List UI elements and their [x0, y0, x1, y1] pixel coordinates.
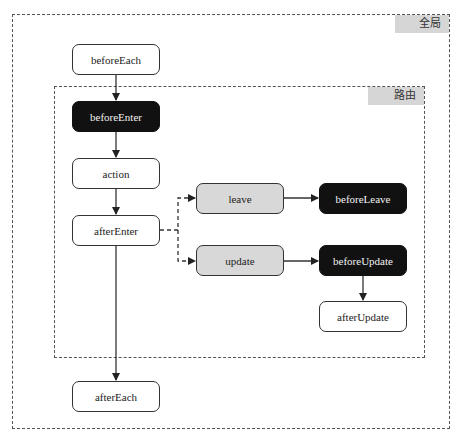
node-beforeEach-label: beforeEach: [91, 54, 141, 66]
node-leave: leave: [196, 183, 284, 214]
node-action: action: [72, 158, 160, 189]
node-afterUpdate: afterUpdate: [319, 301, 407, 332]
edges-layer: [0, 0, 460, 440]
node-beforeUpdate-label: beforeUpdate: [333, 255, 393, 267]
node-action-label: action: [103, 168, 130, 180]
node-beforeEach: beforeEach: [72, 44, 160, 75]
node-beforeLeave: beforeLeave: [319, 183, 407, 214]
node-beforeEnter-label: beforeEnter: [90, 111, 142, 123]
node-update: update: [196, 245, 284, 276]
node-afterEnter-label: afterEnter: [94, 225, 138, 237]
edge-afterEnter-leave: [160, 198, 195, 230]
node-leave-label: leave: [228, 193, 251, 205]
node-beforeEnter: beforeEnter: [72, 101, 160, 132]
node-afterEach: afterEach: [72, 381, 160, 412]
node-afterEach-label: afterEach: [95, 391, 137, 403]
node-afterEnter: afterEnter: [72, 215, 160, 246]
node-beforeLeave-label: beforeLeave: [336, 193, 391, 205]
edge-afterEnter-update: [178, 230, 195, 261]
node-beforeUpdate: beforeUpdate: [319, 245, 407, 276]
node-afterUpdate-label: afterUpdate: [337, 311, 389, 323]
node-update-label: update: [225, 255, 254, 267]
